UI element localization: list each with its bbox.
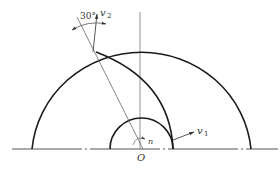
radial-line [77,17,143,149]
v2-subscript: 2 [107,12,111,20]
v2-label: v [100,7,106,18]
blade-arc [96,52,173,149]
inner-circle [110,118,173,149]
outer-circle [32,52,251,149]
origin-label: O [137,152,145,163]
impeller-diagram: 30° v 2 v 1 n O [0,0,280,169]
v1-subscript: 1 [204,130,208,138]
v1-arrow [173,132,194,140]
angle-label: 30° [80,11,96,21]
angle-arc [72,23,106,30]
rotation-label: n [148,137,153,146]
v1-label: v [197,125,203,136]
